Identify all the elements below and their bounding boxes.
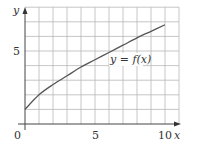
x-tick-5: 5: [92, 129, 99, 142]
x-axis-label: x: [174, 129, 181, 142]
x-axis-arrow-icon: [174, 122, 181, 127]
y-axis-label: y: [12, 4, 20, 17]
origin-label: 0: [14, 129, 21, 142]
x-tick-10: 10: [158, 129, 172, 142]
grid-lines: [25, 7, 179, 124]
function-graph: y = f(x) y x 0 5 10 5: [0, 0, 200, 148]
y-axis-arrow-icon: [23, 7, 28, 14]
curve-label: y = f(x): [109, 53, 151, 66]
y-tick-5: 5: [13, 45, 20, 58]
axes: [18, 7, 181, 130]
